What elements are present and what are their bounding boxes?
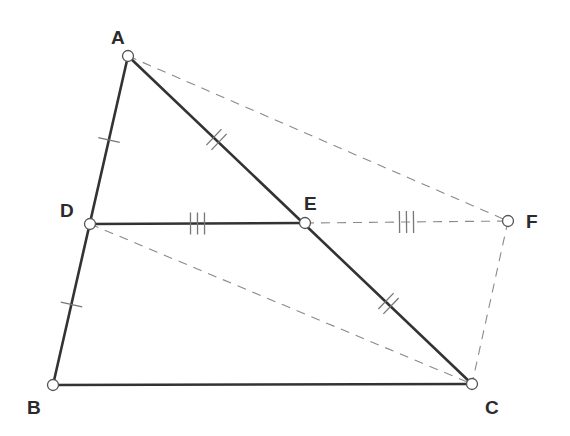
segment-dc [90, 224, 472, 384]
label-b: B [27, 397, 41, 418]
point-d [85, 219, 96, 230]
label-d: D [60, 200, 74, 221]
geometry-diagram: ABCDEF [0, 0, 570, 436]
point-f [503, 216, 514, 227]
congruence-ticks [61, 129, 414, 314]
label-f: F [526, 211, 538, 232]
point-c [467, 379, 478, 390]
segment-bc [53, 384, 472, 385]
label-c: C [485, 397, 499, 418]
point-a [123, 51, 134, 62]
solid-segments [53, 56, 472, 385]
label-e: E [304, 193, 317, 214]
point-b [48, 380, 59, 391]
segment-af [128, 56, 508, 221]
point-e [300, 218, 311, 229]
segment-fc [472, 221, 508, 384]
label-a: A [111, 27, 125, 48]
